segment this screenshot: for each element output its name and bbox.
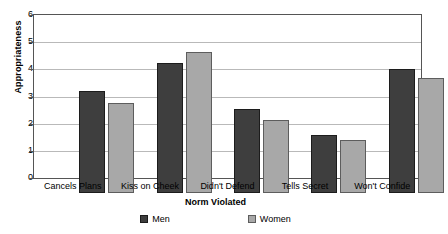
legend-swatch-icon: [248, 215, 256, 223]
bar-group: [145, 30, 222, 193]
y-tick-label: 2: [11, 118, 33, 128]
y-tick-label: 3: [11, 91, 33, 101]
bar-group: [378, 30, 448, 193]
y-tick-label: 0: [11, 172, 33, 182]
x-tick-label: Cancels Plans: [34, 181, 111, 191]
x-axis-title: Norm Violated: [0, 197, 431, 207]
bar-group: [68, 30, 145, 193]
y-tick-label: 1: [11, 145, 33, 155]
y-tick-label: 6: [11, 9, 33, 19]
y-axis-ticks: 0123456: [0, 14, 33, 179]
bar-women[interactable]: [108, 103, 134, 193]
bar-men[interactable]: [79, 91, 105, 193]
x-tick-label: Won't Confide: [344, 181, 421, 191]
bar-men[interactable]: [157, 63, 183, 193]
y-tick-label: 4: [11, 63, 33, 73]
x-tick-label: Tells Secret: [266, 181, 343, 191]
legend-label: Men: [152, 214, 170, 224]
plot-area: [33, 14, 422, 179]
bar-women[interactable]: [418, 78, 444, 194]
x-axis-tick-labels: Cancels PlansKiss on CheekDidn't DefendT…: [34, 181, 421, 191]
bars-layer: [68, 30, 448, 193]
legend-item-men[interactable]: Men: [140, 214, 170, 224]
legend-item-women[interactable]: Women: [248, 214, 291, 224]
x-tick-label: Kiss on Cheek: [111, 181, 188, 191]
legend-swatch-icon: [140, 215, 148, 223]
bar-women[interactable]: [186, 52, 212, 193]
chart-legend: MenWomen: [0, 214, 431, 224]
bar-men[interactable]: [389, 69, 415, 193]
x-tick-label: Didn't Defend: [189, 181, 266, 191]
bar-group: [223, 30, 300, 193]
legend-label: Women: [260, 214, 291, 224]
y-tick-label: 5: [11, 36, 33, 46]
bar-group: [300, 30, 377, 193]
